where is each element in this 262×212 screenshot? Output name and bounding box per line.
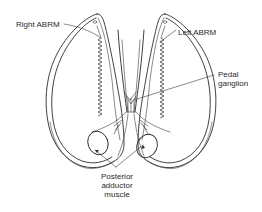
right-posterior-adductor <box>84 128 111 157</box>
mussel-anatomy-diagram: Right ABRM Left ABRM Pedal ganglion Post… <box>0 0 262 212</box>
right-valve-outline <box>46 14 124 168</box>
left-adductor-arrow <box>141 145 145 149</box>
right-mantle-line <box>98 18 120 140</box>
left-abrm-muscle <box>160 38 164 118</box>
left-abrm-leader <box>160 30 176 42</box>
leader-lines <box>64 24 214 167</box>
label-right-abrm: Right ABRM <box>16 20 60 29</box>
left-valve-inner-rim <box>150 18 210 163</box>
left-mantle-line <box>142 18 164 140</box>
right-valve-edge <box>50 122 114 169</box>
right-abrm-attachment <box>93 21 97 24</box>
label-adductor: adductor <box>99 181 135 190</box>
central-right-fold <box>118 30 127 112</box>
right-abrm-tendon <box>97 26 101 38</box>
label-posterior: Posterior <box>99 172 135 181</box>
label-muscle: muscle <box>99 190 135 199</box>
left-valve-outline <box>138 14 216 168</box>
right-valve-inner-rim <box>52 18 112 163</box>
label-ganglion: ganglion <box>218 79 248 88</box>
central-inner-right <box>122 40 128 112</box>
left-abrm-tendon <box>161 26 165 38</box>
label-pedal: Pedal <box>218 70 238 79</box>
label-left-abrm: Left ABRM <box>178 28 216 37</box>
right-abrm-leader <box>64 24 101 38</box>
central-left-fold <box>135 30 144 112</box>
central-inner-left <box>134 40 140 112</box>
right-abrm-muscle <box>98 38 102 116</box>
left-posterior-adductor <box>133 131 161 161</box>
left-abrm-attachment <box>163 21 167 24</box>
